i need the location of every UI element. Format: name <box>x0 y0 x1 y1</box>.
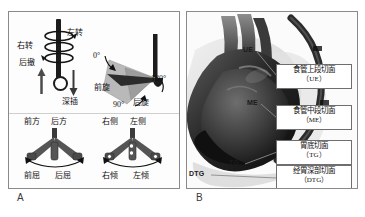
callout-dtg-abbr: （DTG） <box>279 176 349 184</box>
label-right-side: 右侧 <box>102 118 118 126</box>
label-right-turn: 右转 <box>17 42 33 50</box>
panel-b-letter: B <box>196 192 203 203</box>
callout-ue-title: 食管上段切面 <box>279 66 349 75</box>
label-degree-0: 0° <box>93 51 100 60</box>
panel-a-letter: A <box>17 192 24 203</box>
insert-arrow-icon <box>69 70 78 96</box>
label-degree-180: 180° <box>151 74 166 83</box>
callout-me-abbr: （ME） <box>279 116 349 124</box>
callout-tg-abbr: （TG） <box>279 151 349 159</box>
label-posterior-rotation: 后旋 <box>133 99 149 107</box>
label-left-tilt: 左倾 <box>133 172 149 180</box>
label-left-turn: 左转 <box>67 29 83 37</box>
label-anterior-flexion: 前屈 <box>24 172 40 180</box>
label-posterior-flexion: 后屈 <box>55 172 71 180</box>
withdraw-arrow-icon <box>37 68 46 94</box>
label-left-side: 左侧 <box>130 118 146 126</box>
label-insert: 深插 <box>62 98 78 106</box>
label-right-tilt: 右倾 <box>102 172 118 180</box>
label-degree-90: 90° <box>113 100 124 109</box>
panel-a-divider <box>9 113 180 114</box>
label-posterior-side: 后方 <box>51 118 67 126</box>
panel-a: 左转 右转 后撤 深插 <box>8 11 180 189</box>
callout-dtg-title: 经胃深部切面 <box>279 167 349 176</box>
callout-me-title: 食管中段切面 <box>279 107 349 116</box>
label-anterior-side: 前方 <box>24 118 40 126</box>
probe-tip-ring <box>53 76 68 91</box>
callout-ue: 食管上段切面 （UE） <box>276 64 352 89</box>
label-withdraw: 后撤 <box>19 59 35 67</box>
callout-tg: 胃底切面 （TG） <box>276 140 352 165</box>
callout-dtg: 经胃深部切面 （DTG） <box>276 165 352 189</box>
panel-b: UE ME TG DTG 食管上段切面 （UE） 食管中段切面 （ME） 胃底切… <box>186 11 358 189</box>
flexion-diagram-icon <box>19 128 91 172</box>
label-anterior-rotation: 前旋 <box>94 84 110 92</box>
tilt-diagram-icon <box>97 128 169 172</box>
callout-ue-abbr: （UE） <box>279 75 349 83</box>
callout-tg-title: 胃底切面 <box>279 142 349 151</box>
callout-me: 食管中段切面 （ME） <box>276 105 352 130</box>
figure-container: 左转 右转 后撤 深插 <box>0 0 365 217</box>
